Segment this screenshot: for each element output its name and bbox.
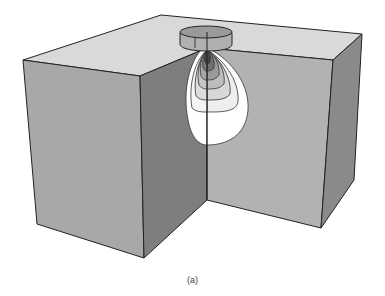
- indenter: [180, 26, 232, 51]
- figure-caption: (a): [0, 275, 385, 285]
- left-face: [23, 60, 144, 258]
- block-diagram: [0, 0, 385, 296]
